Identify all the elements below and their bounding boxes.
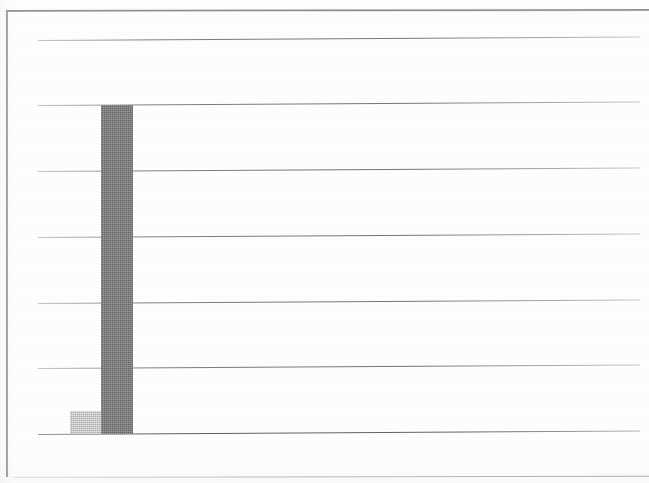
bars-layer <box>0 0 649 483</box>
bar-dark-tall <box>101 105 133 434</box>
scanned-chart-page <box>0 0 649 483</box>
bar-light-short <box>70 411 101 434</box>
